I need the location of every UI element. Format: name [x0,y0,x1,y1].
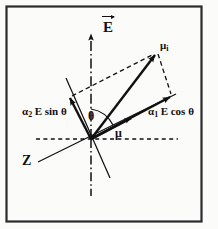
label-alpha1-rest: E cos θ [161,105,194,117]
label-alpha1-subscript: 1 [154,110,158,119]
label-E-text: E [103,19,113,35]
label-alpha2-subscript: 2 [28,110,32,119]
label-angle-theta: θ [88,110,94,122]
label-perpendicular-component: α2E sin θ [22,106,67,119]
label-parallel-component: α1E cos θ [148,106,194,119]
label-induced-moment: μi [160,40,168,53]
label-alpha2-rest: E sin θ [35,105,67,117]
vector-arrow-accent-icon [102,16,114,17]
label-permanent-moment: μ [115,127,122,139]
label-field-vector-E: E [103,20,113,35]
label-mu-i-subscript: i [166,44,168,53]
label-axis-z: Z [22,154,31,168]
figure-container: E μi α2E sin θ α1E cos θ θ μ Z [0,0,218,229]
